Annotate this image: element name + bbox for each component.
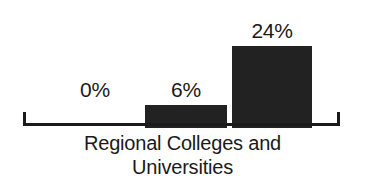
bar-chart-figure: 0% 6% 24% Regional Colleges and Universi… (0, 0, 365, 178)
axis-baseline (23, 123, 340, 126)
chart-caption: Regional Colleges and Universities (0, 131, 365, 178)
bar-value-label-2: 6% (145, 78, 227, 102)
bar-series-3 (232, 46, 312, 128)
axis-end-cap-left (23, 112, 26, 126)
caption-line-2: Universities (0, 155, 365, 178)
plot-area: 0% 6% 24% (0, 0, 365, 128)
caption-line-1: Regional Colleges and (0, 131, 365, 155)
bar-value-label-1: 0% (55, 78, 135, 102)
bar-value-label-3: 24% (232, 19, 312, 43)
axis-end-cap-right (337, 112, 340, 126)
